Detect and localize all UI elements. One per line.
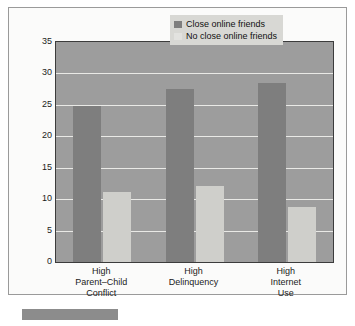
x-tick-label-line: Parent–Child bbox=[55, 277, 147, 288]
legend: Close online friends No close online fri… bbox=[170, 15, 283, 45]
x-tick-label-line: High bbox=[147, 266, 239, 277]
x-tick-label-line: Internet bbox=[240, 277, 332, 288]
x-tick-label: HighInternetUse bbox=[240, 266, 332, 299]
bar bbox=[196, 186, 224, 262]
x-tick-label-line: High bbox=[55, 266, 147, 277]
plot-area bbox=[55, 41, 334, 263]
y-tick-label: 25 bbox=[26, 100, 52, 109]
x-tick-label-line: Conflict bbox=[55, 288, 147, 299]
legend-item-no-close-online-friends: No close online friends bbox=[174, 30, 277, 42]
legend-swatch-icon bbox=[174, 33, 182, 40]
y-tick-label: 0 bbox=[26, 257, 52, 266]
legend-item-close-online-friends: Close online friends bbox=[174, 18, 277, 30]
bar bbox=[288, 207, 316, 262]
plot-inner bbox=[56, 42, 333, 262]
legend-label: No close online friends bbox=[186, 31, 277, 41]
x-axis-ticks: HighParent–ChildConflictHighDelinquencyH… bbox=[55, 266, 334, 306]
x-tick-label: HighDelinquency bbox=[147, 266, 239, 288]
x-tick-label-line: High bbox=[240, 266, 332, 277]
gridline bbox=[56, 73, 333, 74]
legend-swatch-icon bbox=[174, 21, 182, 28]
x-tick-label-line: Use bbox=[240, 288, 332, 299]
y-tick-label: 10 bbox=[26, 194, 52, 203]
caption-bar bbox=[22, 309, 118, 320]
y-tick-label: 15 bbox=[26, 163, 52, 172]
bar bbox=[103, 192, 131, 262]
x-tick-label-line: Delinquency bbox=[147, 277, 239, 288]
y-tick-label: 35 bbox=[26, 37, 52, 46]
bar bbox=[73, 106, 101, 262]
bar bbox=[258, 83, 286, 262]
y-tick-label: 20 bbox=[26, 131, 52, 140]
bar bbox=[166, 89, 194, 262]
x-tick-label: HighParent–ChildConflict bbox=[55, 266, 147, 299]
y-tick-label: 30 bbox=[26, 68, 52, 77]
legend-label: Close online friends bbox=[186, 19, 265, 29]
y-axis-ticks: 35302520151050 bbox=[21, 41, 52, 263]
figure-frame: Percentage of Youths 35302520151050 High… bbox=[8, 7, 347, 295]
y-tick-label: 5 bbox=[26, 226, 52, 235]
